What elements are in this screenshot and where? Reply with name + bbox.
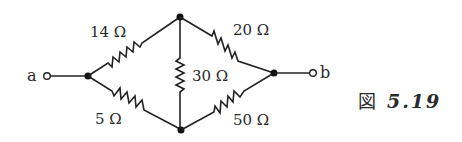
terminal-a-icon bbox=[44, 73, 51, 80]
figure-caption-number: 5.19 bbox=[387, 90, 441, 112]
resistor-30-ohm bbox=[176, 17, 184, 130]
resistor-20-ohm-label: 20 Ω bbox=[233, 21, 269, 39]
terminal-a-label: a bbox=[27, 66, 37, 85]
resistor-30-ohm-label: 30 Ω bbox=[192, 67, 228, 85]
bridge-circuit-diagram: a 14 Ω 5 Ω 30 Ω 20 Ω 50 Ω b 図 5.19 bbox=[0, 0, 462, 142]
resistor-14-ohm-label: 14 Ω bbox=[90, 23, 126, 41]
terminal-b-icon bbox=[310, 70, 317, 77]
resistor-50-ohm-label: 50 Ω bbox=[233, 111, 269, 129]
resistor-5-ohm-label: 5 Ω bbox=[95, 110, 122, 128]
figure-caption-prefix: 図 bbox=[358, 91, 376, 112]
terminal-b-label: b bbox=[320, 63, 330, 82]
